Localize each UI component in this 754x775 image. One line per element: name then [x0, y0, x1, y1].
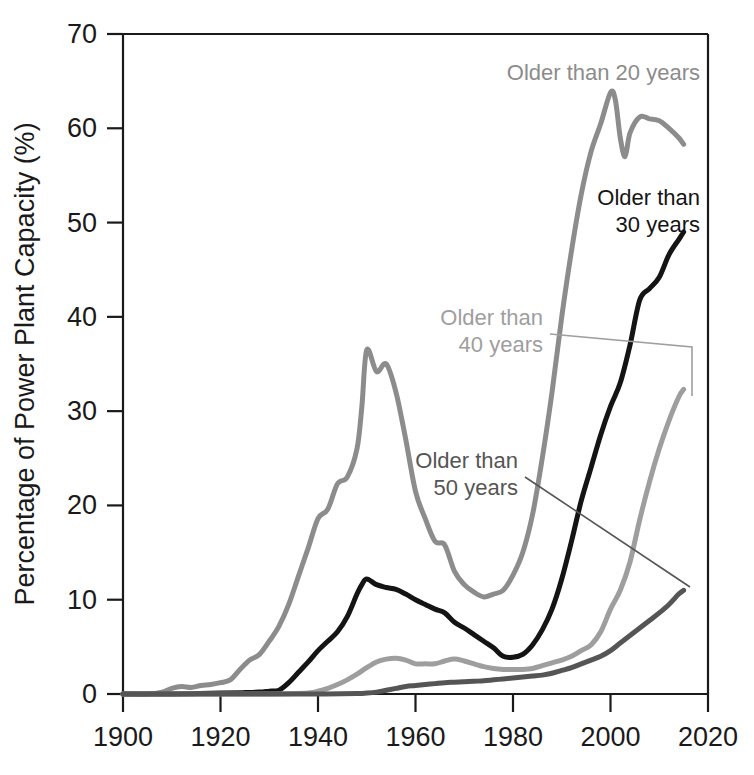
annotation-older-40: Older than 40 years [440, 305, 543, 357]
y-tick-label-30: 30 [67, 396, 97, 426]
y-tick-label-50: 50 [67, 208, 97, 238]
chart-figure: 010203040506070 190019201940196019802000… [0, 0, 754, 775]
annotation-older-30-line2: 30 years [616, 212, 700, 237]
series-line-older-than-20-years [123, 91, 684, 694]
y-axis-ticks: 010203040506070 [67, 19, 123, 709]
annotation-older-40-line1: Older than [440, 305, 543, 330]
annotation-older-20-line1: Older than 20 years [507, 60, 700, 85]
y-tick-label-40: 40 [67, 302, 97, 332]
x-tick-label-2000: 2000 [580, 722, 640, 752]
x-tick-label-1940: 1940 [288, 722, 348, 752]
x-tick-label-2020: 2020 [678, 722, 738, 752]
x-axis-ticks: 1900192019401960198020002020 [93, 694, 738, 752]
x-tick-label-1900: 1900 [93, 722, 153, 752]
annotation-older-20: Older than 20 years [507, 60, 700, 85]
series-line-older-than-30-years [123, 232, 684, 694]
y-tick-label-60: 60 [67, 113, 97, 143]
y-tick-label-10: 10 [67, 585, 97, 615]
series-line-older-than-50-years [123, 590, 684, 694]
line-chart-canvas: 010203040506070 190019201940196019802000… [0, 0, 754, 775]
annotation-older-50-line1: Older than [415, 448, 518, 473]
annotation-older-40-line2: 40 years [459, 332, 543, 357]
leader-lines [525, 334, 692, 587]
y-tick-label-0: 0 [82, 679, 97, 709]
annotation-older-50-line2: 50 years [434, 475, 518, 500]
series-group [123, 91, 684, 694]
annotation-older-30-line1: Older than [597, 185, 700, 210]
y-tick-label-20: 20 [67, 490, 97, 520]
x-tick-label-1980: 1980 [483, 722, 543, 752]
x-tick-label-1920: 1920 [190, 722, 250, 752]
y-axis-title: Percentage of Power Plant Capacity (%) [10, 122, 40, 605]
x-tick-label-1960: 1960 [385, 722, 445, 752]
y-tick-label-70: 70 [67, 19, 97, 49]
leader-line-older-50 [525, 477, 690, 587]
annotation-older-30: Older than 30 years [597, 185, 700, 237]
annotation-older-50: Older than 50 years [415, 448, 518, 500]
